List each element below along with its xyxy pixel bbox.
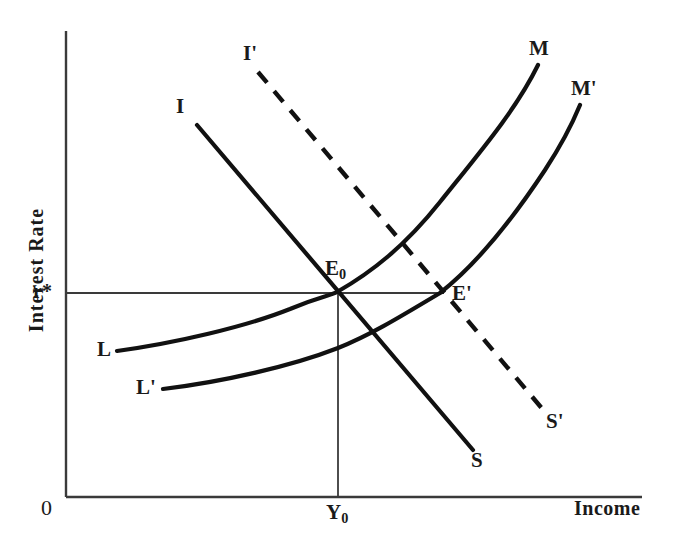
- equilibrium-label-e-prime: E': [452, 283, 472, 304]
- origin-label: 0: [41, 497, 52, 519]
- curve-label-M-prime: M': [571, 78, 597, 99]
- curve-label-I-prime: I': [243, 43, 257, 64]
- curve-label-I: I: [176, 96, 184, 117]
- e0-subscript: 0: [339, 266, 346, 282]
- curve-label-S: S: [471, 450, 483, 471]
- equilibrium-label-e0: E0: [325, 258, 346, 281]
- curve-Lprime-Mprime: [163, 105, 580, 389]
- y-axis-tick-label-rstar: r*: [33, 281, 52, 301]
- e0-base: E: [325, 256, 339, 280]
- y0-subscript: 0: [341, 510, 348, 526]
- y0-base: Y: [326, 500, 341, 524]
- curve-label-L-prime: L': [136, 377, 156, 398]
- curve-label-S-prime: S': [546, 411, 564, 432]
- curve-label-L: L: [97, 339, 111, 360]
- x-axis-title: Income: [574, 498, 640, 518]
- curve-I-S: [197, 125, 473, 450]
- curve-label-M: M: [529, 38, 549, 59]
- y-axis-title: Interest Rate: [26, 208, 46, 332]
- economics-diagram-figure: Interest Rate Income 0 r* Y0 I I' S S' M…: [0, 0, 673, 549]
- x-axis-tick-label-y0: Y0: [326, 502, 348, 525]
